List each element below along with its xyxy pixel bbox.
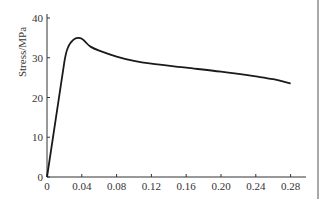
y-axis-label: Stress/MPa (16, 27, 28, 77)
y-tick-label: 40 (32, 12, 44, 24)
y-tick-label: 0 (38, 171, 44, 183)
x-tick-label: 0.20 (211, 180, 231, 192)
y-tick-label: 10 (32, 131, 44, 143)
x-tick-label: 0 (44, 180, 50, 192)
y-tick-label: 30 (32, 52, 44, 64)
x-tick-label: 0.24 (246, 180, 266, 192)
axes: 01020304000.040.080.120.160.200.240.28St… (16, 12, 306, 192)
x-tick-label: 0.08 (107, 180, 127, 192)
x-tick-label: 0.16 (177, 180, 197, 192)
y-tick-label: 20 (32, 92, 44, 104)
stress-strain-curve (47, 38, 291, 177)
stress-strain-chart: 01020304000.040.080.120.160.200.240.28St… (0, 0, 324, 199)
x-tick-label: 0.12 (142, 180, 161, 192)
x-tick-label: 0.28 (281, 180, 301, 192)
x-tick-label: 0.04 (72, 180, 92, 192)
